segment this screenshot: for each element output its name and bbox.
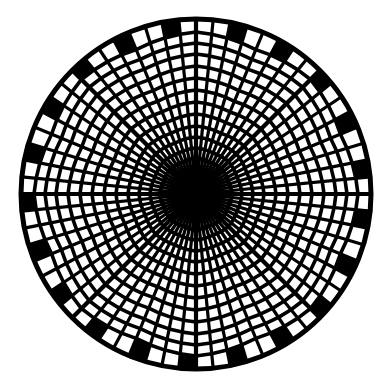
center-core (170, 168, 222, 220)
radial-web-graphic (0, 0, 388, 389)
radial-web-figure (0, 0, 388, 389)
